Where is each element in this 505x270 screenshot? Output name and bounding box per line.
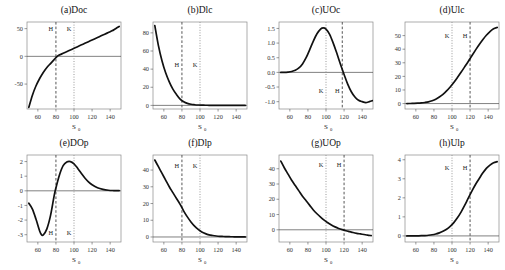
figure-panel-grid: (a)DocHK6080100120140500-50S0(b)DlcHK608… [0,0,505,270]
chart-panel-cuoc: (c)UOcKH60801001201401.51.00.50.0-0.5-1.… [253,2,379,137]
svg-text:S: S [72,123,76,131]
y-tick-label: 30 [143,183,149,190]
x-tick-label: 140 [357,246,366,253]
y-tick-label: -0.5 [265,83,275,90]
x-tick-label: 80 [53,113,59,120]
svg-text:0: 0 [204,127,207,132]
x-tick-label: 100 [69,113,78,120]
x-tick-label: 100 [321,246,330,253]
chart-panel-guop: (g)UOpKH6080100120140403020100S0 [253,135,379,270]
y-tick-label: 1.0 [267,39,275,46]
data-curve [281,161,371,235]
chart-panel-adoc: (a)DocHK6080100120140500-50S0 [1,2,127,137]
x-tick-label: 100 [69,246,78,253]
x-axis-label: S0 [324,256,333,265]
y-tick-label: 3 [398,175,401,182]
y-tick-label: 0 [272,226,275,233]
x-tick-label: 80 [305,113,311,120]
data-curve [29,161,119,235]
y-tick-label: 0 [398,232,401,239]
y-tick-label: 50 [17,25,23,32]
y-tick-label: 30 [395,59,401,66]
y-tick-label: 20 [143,83,149,90]
data-curve [407,27,497,103]
y-tick-label: 0.0 [267,69,275,76]
marker-label-H: H [463,32,468,39]
y-tick-label: 0 [146,102,149,109]
svg-text:0: 0 [330,127,333,132]
marker-label-K: K [193,162,198,169]
marker-label-H: H [463,164,468,171]
x-axis-label: S0 [72,123,81,132]
y-tick-label: 2 [20,158,23,165]
y-tick-label: 40 [143,166,149,173]
x-tick-label: 60 [413,113,419,120]
x-tick-label: 80 [431,113,437,120]
chart-title: (c)UOc [312,5,340,16]
chart-panel-fdlp: (f)DlpHK6080100120140403020100S0 [127,135,253,270]
y-tick-label: 60 [143,47,149,54]
svg-text:0: 0 [456,260,459,265]
svg-text:0: 0 [456,127,459,132]
chart-title: (a)Doc [61,5,87,16]
svg-text:S: S [198,256,202,264]
x-tick-label: 140 [105,113,114,120]
svg-text:S: S [450,123,454,131]
y-tick-label: -1 [18,202,23,209]
y-tick-label: 0 [20,187,23,194]
y-tick-label: 2 [398,194,401,201]
x-tick-label: 80 [53,246,59,253]
x-tick-label: 80 [431,246,437,253]
svg-text:S: S [324,123,328,131]
chart-title: (b)Dlc [188,5,213,16]
x-tick-label: 140 [483,113,492,120]
chart-panel-bdlc: (b)DlcHK6080100120140806040200S0 [127,2,253,137]
x-tick-label: 140 [483,246,492,253]
chart-panel-edop: (e)DOpHK6080100120140210-1-2-3S0 [1,135,127,270]
marker-label-K: K [67,25,72,32]
x-axis-label: S0 [450,256,459,265]
x-axis-label: S0 [198,123,207,132]
y-tick-label: 20 [269,195,275,202]
x-tick-label: 140 [231,113,240,120]
y-tick-label: 30 [269,180,275,187]
x-tick-label: 80 [179,246,185,253]
x-tick-label: 60 [287,246,293,253]
chart-title: (e)DOp [59,138,88,149]
x-tick-label: 120 [213,113,222,120]
marker-label-K: K [445,32,450,39]
chart-title: (d)Ulc [440,5,465,16]
x-tick-label: 100 [195,113,204,120]
svg-text:S: S [324,256,328,264]
x-tick-label: 100 [447,246,456,253]
x-tick-label: 80 [179,113,185,120]
y-tick-label: 50 [395,32,401,39]
x-tick-label: 140 [357,113,366,120]
marker-label-K: K [193,61,198,68]
svg-text:0: 0 [204,260,207,265]
svg-text:0: 0 [78,260,81,265]
marker-label-H: H [49,25,54,32]
y-tick-label: 0.5 [267,54,275,61]
chart-title: (h)Ulp [439,138,465,149]
marker-label-H: H [337,161,342,168]
x-tick-label: 120 [339,113,348,120]
data-curve [281,28,373,103]
y-tick-label: 10 [143,216,149,223]
x-tick-label: 140 [105,246,114,253]
y-tick-label: 1 [20,172,23,179]
x-tick-label: 60 [35,246,41,253]
y-tick-label: 0 [146,233,149,240]
y-tick-label: 4 [398,156,402,163]
chart-panel-dulc: (d)UlcKH608010012014050403020100S0 [379,2,505,137]
svg-text:S: S [72,256,76,264]
x-tick-label: 100 [321,113,330,120]
x-tick-label: 120 [465,246,474,253]
marker-label-K: K [319,87,324,94]
marker-label-K: K [67,229,72,236]
y-tick-label: 10 [395,86,401,93]
svg-text:0: 0 [78,127,81,132]
y-tick-label: 40 [143,65,149,72]
marker-label-H: H [175,162,180,169]
x-axis-label: S0 [198,256,207,265]
